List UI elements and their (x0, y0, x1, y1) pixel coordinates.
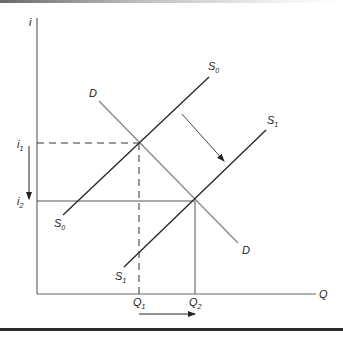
x-axis-label: Q (319, 288, 328, 300)
i2-label: i2 (17, 195, 23, 209)
y-axis-label: i (29, 16, 32, 28)
supply-shift-arrow (182, 114, 224, 161)
q1-label: Q1 (133, 296, 146, 310)
s0-top-label: S0 (208, 60, 219, 74)
supply-demand-diagram: i Q S0 S0 S1 S1 D D i1 i2 Q1 Q2 (0, 0, 343, 338)
bottom-border (0, 328, 343, 331)
demand-top-label: D (89, 87, 97, 99)
s1-bottom-label: S1 (115, 270, 126, 284)
demand-bottom-label: D (242, 244, 250, 256)
q2-label: Q2 (189, 296, 202, 310)
i1-label: i1 (17, 138, 23, 152)
s0-bottom-label: S0 (54, 217, 65, 231)
demand-curve (99, 101, 238, 243)
supply-curve-s0 (63, 77, 209, 215)
s1-top-label: S1 (267, 114, 278, 128)
